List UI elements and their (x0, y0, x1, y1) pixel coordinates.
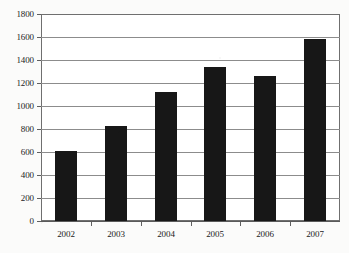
y-axis-tick-label: 0 (0, 217, 34, 226)
y-axis-tick (37, 106, 41, 107)
x-axis-tick (240, 222, 241, 226)
bar (105, 126, 127, 221)
bar (204, 67, 226, 221)
y-axis-tick-label: 800 (0, 125, 34, 134)
x-axis-tick-label: 2003 (91, 229, 141, 239)
gridline (41, 60, 340, 61)
gridline (41, 37, 340, 38)
y-axis-tick (37, 152, 41, 153)
x-axis-tick (191, 222, 192, 226)
x-axis-tick-label: 2005 (190, 229, 240, 239)
y-axis-tick (37, 14, 41, 15)
x-axis-tick (290, 222, 291, 226)
y-axis-tick (37, 60, 41, 61)
y-axis-tick-label: 1200 (0, 79, 34, 88)
x-axis-tick (141, 222, 142, 226)
gridline (41, 83, 340, 84)
x-axis-tick-label: 2004 (141, 229, 191, 239)
y-axis-tick (37, 221, 41, 222)
y-axis-tick (37, 83, 41, 84)
y-axis-tick (37, 198, 41, 199)
y-axis-tick-label: 1400 (0, 56, 34, 65)
y-axis-tick (37, 175, 41, 176)
x-axis-tick-label: 2002 (41, 229, 91, 239)
chart-page: 020040060080010001200140016001800 200220… (0, 0, 349, 253)
bar (254, 76, 276, 221)
y-axis-tick-label: 1000 (0, 102, 34, 111)
y-axis-tick-label: 200 (0, 194, 34, 203)
y-axis-tick-label: 400 (0, 171, 34, 180)
y-axis-tick (37, 129, 41, 130)
y-axis-tick (37, 37, 41, 38)
gridline (41, 175, 340, 176)
y-axis-tick-label: 600 (0, 148, 34, 157)
y-axis-tick-label: 1600 (0, 33, 34, 42)
x-axis-tick-label: 2007 (290, 229, 340, 239)
y-axis-tick-label: 1800 (0, 10, 34, 19)
gridline (41, 152, 340, 153)
gridline (41, 106, 340, 107)
gridline (41, 129, 340, 130)
bar (304, 39, 326, 221)
x-axis-tick-label: 2006 (240, 229, 290, 239)
plot-area (41, 14, 340, 221)
x-axis-tick (91, 222, 92, 226)
gridline (41, 198, 340, 199)
bar (55, 151, 77, 221)
bar (155, 92, 177, 221)
